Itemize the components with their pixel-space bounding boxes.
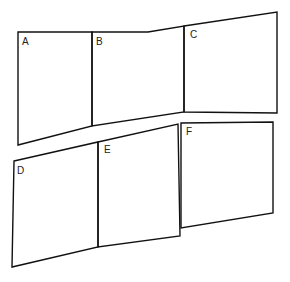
panel-E <box>98 124 180 247</box>
panel-A <box>18 32 92 145</box>
panel-B <box>92 26 184 126</box>
panel-diagram <box>0 0 290 282</box>
panel-label-e: E <box>104 145 111 155</box>
panel-label-d: D <box>17 166 24 176</box>
panel-C <box>184 12 277 113</box>
panel-label-b: B <box>96 37 103 47</box>
panel-label-f: F <box>186 127 192 137</box>
panel-D <box>12 142 98 267</box>
panel-label-a: A <box>22 37 29 47</box>
panel-label-c: C <box>190 30 197 40</box>
panel-F <box>181 122 273 228</box>
